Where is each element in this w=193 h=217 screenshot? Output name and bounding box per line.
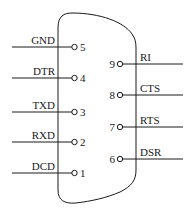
pin-contact-icon	[72, 139, 77, 144]
pin-contact-icon	[72, 170, 77, 175]
pin-contact-icon	[117, 92, 122, 97]
pin-number: 6	[110, 153, 116, 165]
pin-number: 5	[80, 41, 86, 53]
signal-label: DCD	[32, 160, 55, 172]
pin-7-rts: 7RTS	[110, 114, 184, 133]
db9-connector-diagram: 5GND4DTR3TXD2RXD1DCD 9RI8CTS7RTS6DSR	[0, 0, 193, 217]
signal-label: CTS	[140, 82, 160, 94]
signal-label: RI	[140, 51, 151, 63]
connector-outline	[58, 13, 136, 203]
pin-contact-icon	[72, 44, 77, 49]
signal-label: RTS	[140, 114, 160, 126]
signal-label: RXD	[32, 129, 55, 141]
pin-2-rxd: 2RXD	[12, 129, 86, 148]
pin-number: 3	[80, 106, 86, 118]
pin-6-dsr: 6DSR	[110, 146, 184, 165]
pin-1-dcd: 1DCD	[12, 160, 86, 179]
left-pins: 5GND4DTR3TXD2RXD1DCD	[12, 34, 86, 179]
signal-label: GND	[31, 34, 55, 46]
signal-label: DTR	[33, 65, 56, 77]
right-pins: 9RI8CTS7RTS6DSR	[110, 51, 184, 165]
pin-contact-icon	[117, 61, 122, 66]
pin-number: 8	[110, 89, 116, 101]
pin-number: 1	[80, 167, 86, 179]
signal-label: DSR	[140, 146, 162, 158]
pin-8-cts: 8CTS	[110, 82, 184, 101]
pin-5-gnd: 5GND	[12, 34, 86, 53]
pin-number: 4	[80, 72, 86, 84]
pin-number: 2	[80, 136, 86, 148]
pin-contact-icon	[72, 75, 77, 80]
pin-number: 9	[110, 58, 116, 70]
pin-contact-icon	[117, 124, 122, 129]
pin-contact-icon	[117, 156, 122, 161]
pin-4-dtr: 4DTR	[12, 65, 86, 84]
signal-label: TXD	[32, 99, 55, 111]
pin-contact-icon	[72, 109, 77, 114]
pin-9-ri: 9RI	[110, 51, 184, 70]
pin-3-txd: 3TXD	[12, 99, 86, 118]
pin-number: 7	[110, 121, 116, 133]
